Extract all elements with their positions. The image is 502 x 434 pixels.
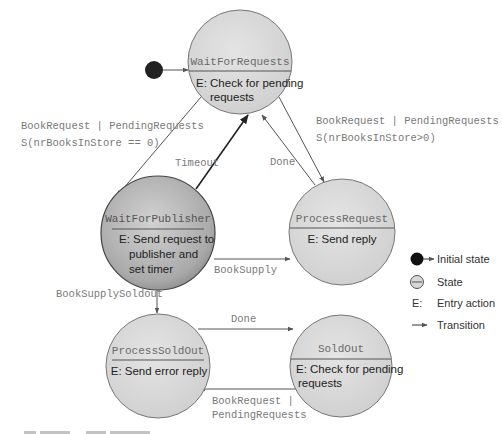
transition-waitforpublisher-to-waitforrequests — [196, 115, 248, 189]
entry-action-line2: requests — [210, 91, 254, 103]
entry-action-line1: E: Check for pending — [296, 363, 403, 375]
initial-state-icon — [145, 61, 163, 79]
label-bookrequest-right-line2: S(nrBooksInStore>0) — [316, 132, 436, 144]
label-booksupplysoldout: BookSupplySoldout — [56, 288, 163, 300]
transition-labels: BookRequest | PendingRequests S(nrBooksI… — [21, 115, 499, 421]
state-waitforpublisher: WaitForPublisher E: Send request to publ… — [101, 176, 215, 290]
entry-action-line1: E: Send error reply — [111, 365, 208, 377]
legend-item-transition: Transition — [412, 319, 485, 331]
state-waitforrequests: WaitForRequests E: Check for pending req… — [188, 10, 303, 114]
state-name: ProcessSoldOut — [112, 345, 204, 357]
state-name: WaitForRequests — [190, 56, 289, 68]
legend: Initial state State E: Entry action Tran… — [411, 253, 496, 332]
legend-item-entry-action: E: Entry action — [412, 297, 495, 309]
entry-action-line2: publisher and — [129, 248, 198, 260]
entry-action-line1: E: Send request to — [119, 233, 214, 245]
state-name: WaitForPublisher — [105, 213, 211, 225]
entry-action-line1: E: Send reply — [307, 233, 376, 245]
label-bookrequest-left-line1: BookRequest | PendingRequests — [21, 120, 204, 132]
label-bookrequest-left-line2: S(nrBooksInStore == 0) — [21, 137, 160, 149]
label-bookrequest-bottom-line1: BookRequest | — [212, 395, 294, 407]
state-processrequest: ProcessRequest E: Send reply — [289, 179, 395, 285]
state-name: ProcessRequest — [296, 213, 388, 225]
legend-label: Transition — [437, 319, 485, 331]
legend-label: Entry action — [437, 297, 495, 309]
state-processsoldout: ProcessSoldOut E: Send error reply — [106, 314, 210, 418]
label-done-bottom: Done — [231, 313, 256, 325]
label-bookrequest-right-line1: BookRequest | PendingRequests — [316, 115, 499, 127]
state-name: SoldOut — [318, 343, 364, 355]
entry-action-icon: E: — [412, 297, 422, 309]
state-soldout: SoldOut E: Check for pending requests — [290, 315, 403, 417]
label-done-top: Done — [270, 156, 295, 168]
label-bookrequest-bottom-line2: PendingRequests — [212, 409, 307, 421]
label-timeout: Timeout — [175, 157, 219, 169]
entry-action-line2: requests — [298, 377, 342, 389]
entry-action-line3: set timer — [129, 263, 173, 275]
legend-item-state: State — [411, 276, 463, 289]
state-diagram: BookRequest | PendingRequests S(nrBooksI… — [0, 0, 502, 434]
entry-action-line1: E: Check for pending — [196, 77, 303, 89]
legend-label: Initial state — [437, 253, 490, 265]
legend-item-initial-state: Initial state — [411, 253, 490, 266]
initial-state — [145, 61, 188, 79]
label-booksupply: BookSupply — [214, 264, 277, 276]
legend-label: State — [437, 276, 463, 288]
initial-state-icon — [411, 253, 424, 266]
